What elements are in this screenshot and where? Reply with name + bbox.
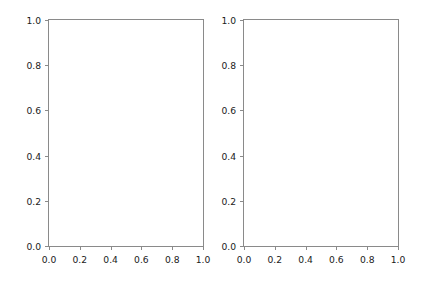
x-tick-label: 0.0 [42, 254, 57, 265]
x-tick-label: 0.8 [360, 254, 375, 265]
y-tick-label: 0.8 [26, 60, 41, 71]
x-tick-label: 0.4 [298, 254, 313, 265]
y-tick-mark [240, 65, 244, 66]
x-tick-label: 0.0 [237, 254, 252, 265]
x-tick-label: 1.0 [196, 254, 211, 265]
y-tick-mark [240, 20, 244, 21]
y-tick-mark [240, 110, 244, 111]
x-tick-mark [111, 246, 112, 250]
x-tick-mark [306, 246, 307, 250]
x-tick-mark [244, 246, 245, 250]
y-tick-mark [45, 65, 49, 66]
y-tick-mark [45, 20, 49, 21]
x-tick-label: 0.4 [103, 254, 118, 265]
y-tick-label: 0.2 [26, 195, 41, 206]
y-tick-mark [45, 110, 49, 111]
y-tick-mark [240, 246, 244, 247]
x-tick-mark [141, 246, 142, 250]
y-tick-mark [45, 156, 49, 157]
y-tick-label: 0.2 [221, 195, 236, 206]
x-tick-label: 0.8 [165, 254, 180, 265]
y-tick-label: 0.4 [221, 150, 236, 161]
y-tick-mark [45, 201, 49, 202]
y-tick-label: 0.0 [26, 241, 41, 252]
subplot-right: 0.00.20.40.60.81.00.00.20.40.60.81.0 [243, 19, 399, 247]
x-tick-label: 0.6 [134, 254, 149, 265]
x-tick-label: 1.0 [391, 254, 406, 265]
y-tick-label: 0.6 [221, 105, 236, 116]
y-tick-label: 0.0 [221, 241, 236, 252]
x-tick-mark [203, 246, 204, 250]
x-tick-mark [49, 246, 50, 250]
subplot-left: 0.00.20.40.60.81.00.00.20.40.60.81.0 [48, 19, 204, 247]
x-tick-label: 0.2 [267, 254, 282, 265]
y-tick-mark [240, 201, 244, 202]
y-tick-label: 1.0 [26, 15, 41, 26]
x-tick-label: 0.6 [329, 254, 344, 265]
x-tick-label: 0.2 [72, 254, 87, 265]
y-tick-label: 0.6 [26, 105, 41, 116]
x-tick-mark [172, 246, 173, 250]
y-tick-label: 0.8 [221, 60, 236, 71]
x-tick-mark [336, 246, 337, 250]
x-tick-mark [367, 246, 368, 250]
y-tick-mark [240, 156, 244, 157]
y-tick-label: 1.0 [221, 15, 236, 26]
x-tick-mark [398, 246, 399, 250]
y-tick-label: 0.4 [26, 150, 41, 161]
x-tick-mark [275, 246, 276, 250]
y-tick-mark [45, 246, 49, 247]
matplotlib-figure: 0.00.20.40.60.81.00.00.20.40.60.81.0 0.0… [0, 0, 421, 282]
x-tick-mark [80, 246, 81, 250]
